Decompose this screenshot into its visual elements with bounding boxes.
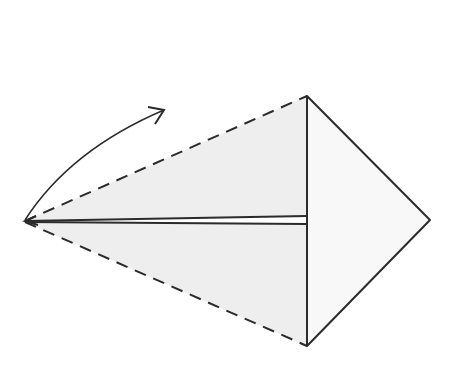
origami-diagram bbox=[0, 0, 451, 366]
right-triangle-face bbox=[307, 96, 430, 346]
